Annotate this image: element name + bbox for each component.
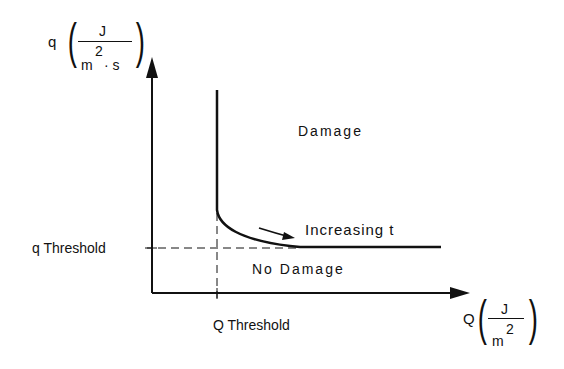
y-unit-denominator: m (81, 58, 93, 72)
fraction-bar (78, 41, 132, 42)
fraction-bar (488, 318, 524, 319)
y-unit-numerator: J (99, 24, 106, 38)
y-axis (146, 57, 158, 293)
y-axis-arrow-icon (146, 57, 158, 78)
increasing-t-label: Increasing t (305, 222, 395, 237)
no-damage-region-label: No Damage (252, 262, 345, 276)
x-axis (152, 287, 470, 299)
y-axis-symbol: q (48, 34, 56, 49)
left-paren: ( (68, 16, 77, 66)
x-axis-symbol: Q (463, 311, 475, 326)
left-paren: ( (478, 293, 487, 343)
x-axis-arrow-icon (450, 287, 470, 299)
increasing-t-arrow-icon (259, 228, 295, 240)
right-paren: ) (529, 293, 538, 343)
y-unit-seconds: · s (104, 58, 120, 72)
right-paren: ) (136, 16, 145, 66)
Q-threshold-label: Q Threshold (213, 318, 290, 332)
x-unit-numerator: J (501, 302, 508, 316)
damage-region-label: Damage (298, 124, 363, 138)
q-threshold-label: q Threshold (32, 241, 106, 255)
x-unit-denominator: m (492, 334, 504, 348)
x-unit-exponent: 2 (506, 322, 514, 336)
y-unit-exponent: 2 (95, 44, 103, 58)
